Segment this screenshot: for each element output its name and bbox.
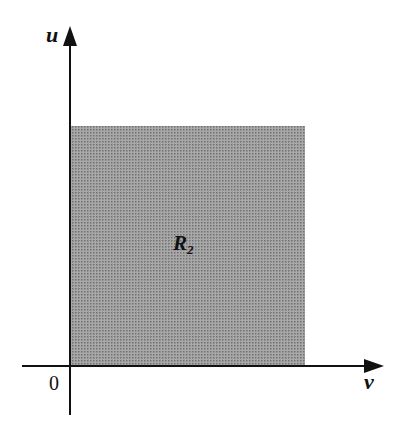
u-axis-label: u: [46, 22, 58, 47]
u-axis-arrow-icon: [63, 26, 77, 46]
uv-plane-diagram: u v 0 R2: [0, 0, 403, 437]
v-axis-label: v: [364, 369, 374, 394]
origin-label: 0: [49, 372, 59, 394]
